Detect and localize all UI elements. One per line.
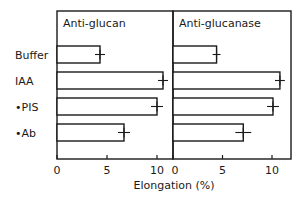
bars-group: [57, 46, 285, 141]
bar-anti-glucan-iaa: [57, 72, 163, 89]
category-labels: Buffer IAA •PIS •Ab: [15, 49, 49, 140]
bar-anti-glucan-ab: [57, 124, 124, 141]
panel-title-anti-glucanase: Anti-glucanase: [179, 17, 261, 30]
x-axis-label: Elongation (%): [133, 179, 214, 192]
bar-anti-glucanase-iaa: [173, 72, 280, 89]
bar-anti-glucanase-buffer: [173, 46, 217, 63]
bar-anti-glucan-buffer: [57, 46, 100, 63]
category-label-iaa: IAA: [15, 75, 34, 88]
x-tick-label: 0: [54, 164, 61, 177]
x-tick-label: 5: [104, 164, 111, 177]
x-tick-label: 10: [150, 164, 164, 177]
category-label-pis: •PIS: [15, 101, 38, 114]
panel-title-anti-glucan: Anti-glucan: [63, 17, 126, 30]
category-label-pis-text: PIS: [22, 101, 39, 114]
bar-anti-glucanase-pis: [173, 98, 273, 115]
x-tick-label: 10: [265, 164, 279, 177]
category-label-ab: •Ab: [15, 127, 36, 140]
category-label-ab-text: Ab: [22, 127, 37, 140]
x-tick-label: 5: [219, 164, 226, 177]
bar-anti-glucanase-ab: [173, 124, 243, 141]
bar-chart: Buffer IAA •PIS •Ab Anti-glucan Anti-glu…: [0, 0, 304, 198]
bar-anti-glucan-pis: [57, 98, 157, 115]
x-tick-label: 0: [172, 164, 179, 177]
category-label-buffer: Buffer: [15, 49, 49, 62]
